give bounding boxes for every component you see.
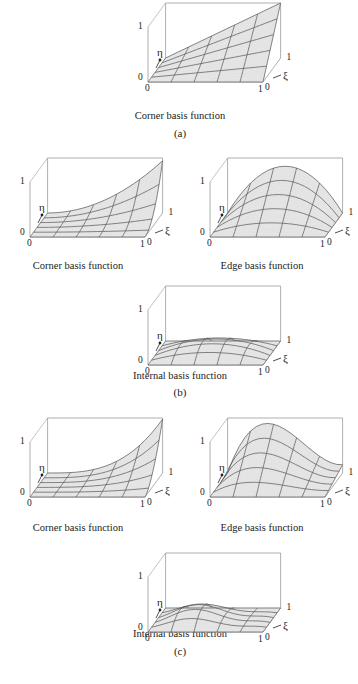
- caption-b-corner: Corner basis function: [33, 260, 123, 271]
- y-tick-0: 0: [147, 238, 152, 248]
- z-tick-0: 0: [20, 228, 25, 238]
- y-tick-1: 1: [349, 468, 354, 478]
- plot-c-internal: 100101ηξ: [118, 542, 298, 652]
- y-tick-1: 1: [287, 336, 292, 346]
- z-tick-0: 0: [138, 356, 143, 366]
- y-tick-0: 0: [147, 498, 152, 508]
- caption-c-edge: Edge basis function: [221, 522, 304, 533]
- x-tick-1: 1: [258, 85, 263, 95]
- z-tick-0: 0: [138, 73, 143, 83]
- z-tick-1: 1: [200, 437, 205, 447]
- y-tick-0: 0: [265, 83, 270, 93]
- z-tick-1: 1: [138, 22, 143, 32]
- plot-c-edge: 100101ηξ: [180, 407, 358, 517]
- x-tick-0: 0: [145, 84, 150, 94]
- eta-axis-label: η: [219, 202, 225, 213]
- x-tick-1: 1: [320, 500, 325, 510]
- xi-axis-label: ξ: [283, 353, 288, 364]
- plot-c-corner: 100101ηξ: [0, 407, 180, 517]
- plot-b-corner: 100101ηξ: [0, 147, 180, 257]
- z-tick-0: 0: [200, 228, 205, 238]
- xi-axis-label: ξ: [345, 225, 350, 236]
- z-tick-1: 1: [20, 177, 25, 187]
- panel-label-b: (b): [174, 386, 187, 398]
- eta-axis-label: η: [157, 330, 163, 341]
- plot-a-corner: 100101ηξ: [118, 0, 298, 102]
- z-tick-1: 1: [138, 572, 143, 582]
- y-tick-1: 1: [287, 53, 292, 63]
- caption-b-edge: Edge basis function: [221, 260, 304, 271]
- x-tick-1: 1: [140, 240, 145, 250]
- panel-label-a: (a): [174, 127, 186, 139]
- x-tick-1: 1: [258, 368, 263, 378]
- x-tick-0: 0: [207, 239, 212, 249]
- eta-axis-label: η: [39, 462, 45, 473]
- xi-axis-label: ξ: [283, 620, 288, 631]
- xi-axis-label: ξ: [165, 225, 170, 236]
- eta-axis-label: η: [157, 597, 163, 608]
- x-tick-0: 0: [207, 499, 212, 509]
- x-tick-1: 1: [258, 635, 263, 645]
- y-tick-0: 0: [265, 633, 270, 643]
- xi-axis-label: ξ: [283, 70, 288, 81]
- eta-axis-label: η: [219, 462, 225, 473]
- plot-b-edge: 100101ηξ: [180, 147, 358, 257]
- z-tick-0: 0: [20, 488, 25, 498]
- y-tick-0: 0: [265, 366, 270, 376]
- z-tick-1: 1: [138, 305, 143, 315]
- xi-axis-label: ξ: [345, 485, 350, 496]
- z-tick-0: 0: [138, 623, 143, 633]
- x-tick-0: 0: [27, 499, 32, 509]
- caption-a-corner: Corner basis function: [135, 110, 225, 121]
- x-tick-1: 1: [140, 500, 145, 510]
- z-tick-0: 0: [200, 488, 205, 498]
- eta-axis-label: η: [39, 202, 45, 213]
- y-tick-1: 1: [349, 208, 354, 218]
- plot-b-internal: 100101ηξ: [118, 275, 298, 385]
- y-tick-1: 1: [287, 603, 292, 613]
- x-tick-0: 0: [145, 367, 150, 377]
- x-tick-0: 0: [145, 634, 150, 644]
- z-tick-1: 1: [200, 177, 205, 187]
- y-tick-0: 0: [327, 498, 332, 508]
- x-tick-0: 0: [27, 239, 32, 249]
- caption-c-corner: Corner basis function: [33, 522, 123, 533]
- y-tick-1: 1: [169, 208, 174, 218]
- eta-axis-label: η: [157, 47, 163, 58]
- y-tick-0: 0: [327, 238, 332, 248]
- y-tick-1: 1: [169, 468, 174, 478]
- z-tick-1: 1: [20, 437, 25, 447]
- xi-axis-label: ξ: [165, 485, 170, 496]
- x-tick-1: 1: [320, 240, 325, 250]
